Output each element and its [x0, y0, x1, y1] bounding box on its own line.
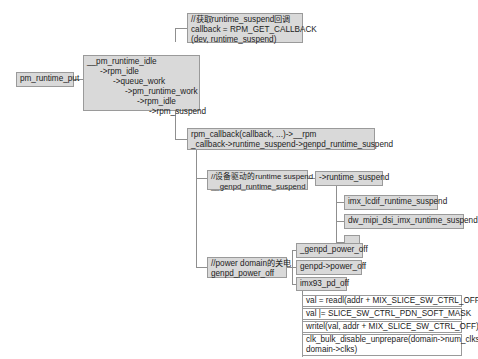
node-line: ->rpm_idle: [87, 97, 196, 107]
node-genpd-runtime-suspend: //设备驱动的runtime suspend __genpd_runtime_s…: [207, 170, 308, 190]
connector: [336, 221, 344, 222]
node-line: ->pm_runtime_work: [87, 87, 196, 97]
node-line: callback = RPM_GET_CALLBACK: [191, 25, 299, 35]
connector: [196, 178, 207, 179]
node-line: rpm_callback(callback, ...)->__rpm: [191, 130, 371, 140]
node-dw-mipi-dsi-runtime-suspend: dw_mipi_dsi_imx_runtime_suspend: [344, 214, 464, 229]
pd-off-step: val |= SLICE_SW_CTRL_PDN_SOFT_MASK: [303, 308, 462, 320]
node-line: //power domain的关电: [211, 259, 283, 269]
pd-off-step-line: domain->clks): [306, 345, 458, 355]
connector: [196, 150, 197, 267]
node-line: //设备驱动的runtime suspend: [211, 172, 304, 182]
node-pm-runtime-put: pm_runtime_put: [16, 72, 74, 87]
node-runtime-suspend: ->runtime_suspend: [315, 171, 383, 186]
node-label: pm_runtime_put: [20, 74, 70, 84]
pd-off-step-line: clk_bulk_disable_unprepare(domain->num_c…: [306, 335, 458, 345]
connector: [336, 186, 337, 242]
node-line: __pm_runtime_idle: [87, 57, 196, 67]
node-line: genpd_power_off: [211, 269, 283, 279]
node-genpd-power-off: //power domain的关电 genpd_power_off: [207, 257, 287, 278]
pd-off-step: writel(val, addr + MIX_SLICE_SW_CTRL_OFF…: [303, 321, 462, 333]
pd-off-step: clk_bulk_disable_unprepare(domain->num_c…: [303, 334, 462, 356]
node-line: ->rpm_idle: [87, 67, 196, 77]
node-line: _callback->runtime_suspend->genpd_runtim…: [191, 140, 371, 150]
pd-off-step: val = readl(addr + MIX_SLICE_SW_CTRL_OFF…: [303, 295, 462, 307]
node-rpm-callback: rpm_callback(callback, ...)->__rpm _call…: [187, 128, 375, 150]
node-label: imx93_pd_off: [300, 279, 343, 289]
node-imx93-pd-off: imx93_pd_off: [296, 277, 347, 291]
node-label: _genpd_power_off: [300, 245, 359, 255]
node-label: ->runtime_suspend: [319, 173, 379, 183]
node-line: ->queue_work: [87, 77, 196, 87]
node-line: //获取runtime_suspend回调: [191, 15, 299, 25]
node-line: genpd->power_off: [300, 262, 358, 272]
node-label: dw_mipi_dsi_imx_runtime_suspend: [348, 216, 460, 226]
connector: [175, 28, 176, 42]
node-genpd-power-off-internal: _genpd_power_off: [296, 243, 363, 258]
connector: [196, 267, 207, 268]
node-idle-chain: __pm_runtime_idle ->rpm_idle ->queue_wor…: [83, 55, 200, 111]
pd-off-steps: val = readl(addr + MIX_SLICE_SW_CTRL_OFF…: [302, 295, 462, 357]
node-line: (dev, runtime_suspend): [191, 35, 299, 45]
connector: [336, 202, 344, 203]
node-imx-lcdif-runtime-suspend: imx_lcdif_runtime_suspend: [344, 195, 438, 210]
node-get-callback: //获取runtime_suspend回调 callback = RPM_GET…: [187, 13, 303, 43]
node-label: imx_lcdif_runtime_suspend: [348, 197, 434, 207]
connector: [175, 139, 187, 140]
node-line: ->rpm_suspend: [87, 107, 196, 117]
node-line: __genpd_runtime_suspend: [211, 182, 304, 192]
node-genpd-power-off-callback: genpd->power_off: [296, 260, 362, 275]
connector: [175, 28, 187, 29]
